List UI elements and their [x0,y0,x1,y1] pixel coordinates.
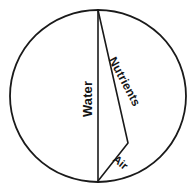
slice-label-water: Water [80,81,95,117]
water-label-text: Water [80,81,95,117]
pie-chart-svg: Water Nutrients Air [0,0,196,193]
pie-diagram-figure: Water Nutrients Air [0,0,196,193]
